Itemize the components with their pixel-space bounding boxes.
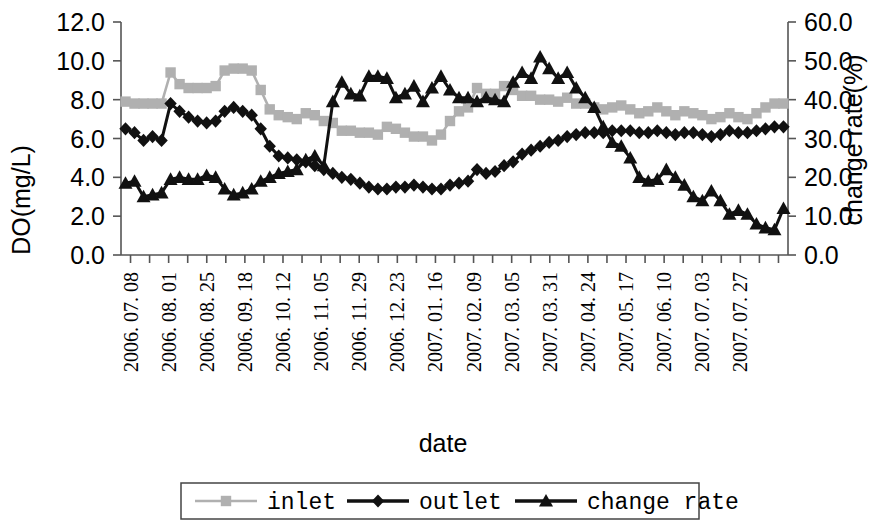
data-point-diamond (750, 124, 762, 137)
y-tick-label: 8.0 (70, 86, 105, 114)
y-tick-label: 4.0 (70, 163, 105, 191)
data-point-diamond (651, 124, 663, 137)
data-point-square (553, 96, 563, 106)
data-point-square (147, 98, 157, 108)
data-point-square (715, 112, 725, 122)
y-tick-label: 2.0 (70, 202, 105, 230)
data-point-triangle (533, 50, 547, 63)
legend-label: change rate (587, 490, 739, 516)
data-point-square (427, 135, 437, 145)
data-point-square (625, 104, 635, 114)
x-tick-label: 2007. 01. 16 (424, 272, 446, 372)
data-point-diamond (642, 126, 654, 139)
data-point-square (571, 98, 581, 108)
data-point-square (778, 98, 788, 108)
data-point-square (607, 102, 617, 112)
data-point-square (265, 104, 275, 114)
data-point-square (445, 116, 455, 126)
data-point-diamond (417, 180, 429, 193)
data-point-square (679, 106, 689, 116)
data-point-diamond (741, 126, 753, 139)
y2-tick-label: 40.0 (804, 86, 853, 114)
data-point-square (526, 91, 536, 101)
data-point-square (129, 98, 139, 108)
x-tick-label: 2007. 03. 31 (539, 272, 561, 372)
data-point-diamond (408, 179, 420, 192)
series-line (126, 57, 784, 230)
y-tick-label: 6.0 (70, 125, 105, 153)
data-point-square (670, 110, 680, 120)
data-point-square (616, 100, 626, 110)
x-tick-label: 2007. 04. 24 (577, 272, 599, 372)
data-point-diamond (669, 128, 681, 141)
data-point-square (409, 131, 419, 141)
data-point-square (418, 131, 428, 141)
y2-tick-label: 20.0 (804, 163, 853, 191)
y-tick-label: 10.0 (56, 47, 105, 75)
data-point-square (751, 108, 761, 118)
data-point-triangle (569, 81, 583, 94)
x-tick-label: 2006. 11. 05 (310, 272, 332, 371)
data-point-triangle (128, 174, 142, 187)
x-tick-label: 2006. 10. 12 (272, 272, 294, 372)
x-tick-label: 2006. 08. 01 (158, 272, 180, 372)
y2-tick-label: 60.0 (804, 8, 853, 36)
data-point-square (760, 102, 770, 112)
y2-tick-label: 10.0 (804, 202, 853, 230)
data-point-square (697, 110, 707, 120)
data-point-square (256, 85, 266, 95)
data-point-square (382, 122, 392, 132)
x-tick-label: 2006. 08. 25 (196, 272, 218, 372)
chart-svg: DO(mg/L) change rate(%) date 0.02.04.06.… (0, 0, 878, 523)
data-point-square (472, 83, 482, 93)
data-point-diamond (282, 151, 294, 164)
legend-label: inlet (267, 490, 336, 516)
y2-tick-label: 50.0 (804, 47, 853, 75)
data-point-square (688, 108, 698, 118)
data-point-square (228, 63, 238, 73)
y2-tick-label: 0.0 (804, 241, 839, 269)
data-point-square (310, 110, 320, 120)
data-point-diamond (687, 126, 699, 139)
data-point-square (274, 110, 284, 120)
data-point-triangle (560, 65, 574, 78)
data-point-square (319, 116, 329, 126)
chart-legend: inletoutletchange rate (181, 483, 739, 519)
x-tick-label: 2007. 07. 27 (729, 272, 751, 372)
data-point-square (201, 83, 211, 93)
x-tick-label: 2006. 11. 29 (348, 272, 370, 371)
data-point-square (733, 112, 743, 122)
data-point-square (120, 96, 130, 106)
data-point-square (301, 108, 311, 118)
data-point-square (454, 106, 464, 116)
data-point-square (246, 65, 256, 75)
data-point-square (337, 126, 347, 136)
y-axis-label: DO(mg/L) (7, 145, 35, 255)
data-point-triangle (515, 65, 529, 78)
data-point-square (355, 127, 365, 137)
data-point-diamond (200, 116, 212, 129)
y-tick-label: 0.0 (70, 241, 105, 269)
data-point-square (535, 94, 545, 104)
data-point-square (661, 106, 671, 116)
data-point-square (706, 114, 716, 124)
data-point-square (183, 83, 193, 93)
data-point-square (634, 108, 644, 118)
data-point-diamond (381, 182, 393, 195)
data-point-triangle (731, 203, 745, 216)
x-tick-label: 2007. 02. 09 (463, 272, 485, 372)
data-point-triangle (434, 69, 448, 82)
data-point-triangle (407, 79, 421, 92)
data-point-square (373, 129, 383, 139)
data-point-square (652, 102, 662, 112)
data-point-square (364, 127, 374, 137)
data-point-triangle (704, 184, 718, 197)
data-point-triangle (659, 163, 673, 176)
data-point-square (219, 65, 229, 75)
data-point-square (138, 98, 148, 108)
data-point-diamond (624, 124, 636, 137)
data-point-square (292, 114, 302, 124)
data-point-square (544, 94, 554, 104)
x-tick-label: 2007. 03. 05 (501, 272, 523, 372)
data-point-square (724, 108, 734, 118)
